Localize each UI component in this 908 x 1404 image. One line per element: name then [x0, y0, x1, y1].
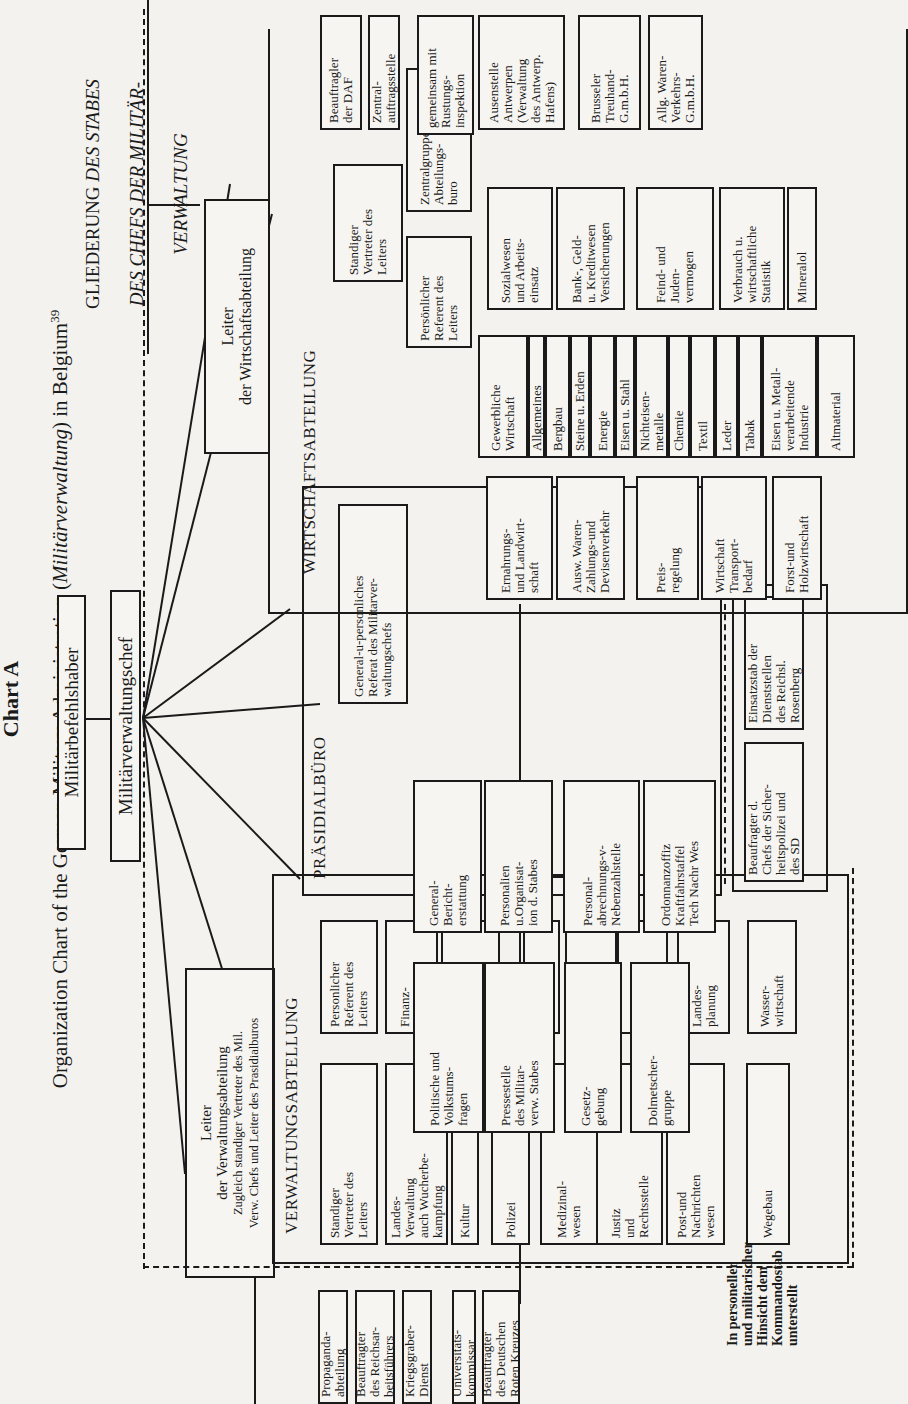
praesidial-unit: Gesetz- gebung — [564, 962, 622, 1133]
standiger-vertreter-box: Standiger Vertreter des Leiters — [333, 164, 403, 282]
wirtschaft-unit: Verbrauch u. wirtschaftliche Statistik — [719, 187, 785, 310]
gewerbliche-item: Allgemeines — [528, 335, 545, 458]
verwaltung-attached-unit: Propaganda- abteilung — [318, 1290, 348, 1404]
gewerbliche-item: Textil — [690, 335, 715, 458]
wirtschaft-unit: Forst-und Holzwirtschaft — [772, 476, 822, 600]
wirtschaft-unit: Mineralol — [787, 187, 817, 310]
wirtschaftsabteilung-title: WIRTSCHAFTSABTEILUNG — [300, 350, 320, 574]
verwaltung-attached-unit: Beauftragter des Reichsar- beitsführers — [355, 1290, 395, 1404]
sonder-dash — [724, 604, 726, 884]
sonder-bracket — [732, 584, 828, 892]
leiter-wirtschaft-box: Leiter der Wirtschaftsabteilung — [204, 199, 270, 454]
wirtschaft-attached-unit: Brusseler Treuhand- G.m.b.H. — [578, 15, 641, 130]
praesidial-unit: Personalien u.Organisat- ion d. Stabes — [484, 780, 553, 933]
wirtschaft-unit: Preis- regelung — [636, 476, 699, 600]
org-chart-page: Chart A Organization Chart of the German… — [0, 0, 908, 1404]
leiter-verwaltung-box: Leiter der Verwaltungsabteilung Zugleich… — [185, 968, 275, 1278]
verwaltung-unit: Wasser- wirtschaft — [747, 920, 797, 1034]
leiter-verwaltung-line1: Leiter — [198, 1105, 214, 1141]
kommandostab-note: In personeller und militarischer Hinsich… — [725, 1166, 800, 1346]
verwaltung-attached-unit: Universitats- kommissar — [452, 1290, 476, 1404]
wirtschaft-unit: Bank-, Geld- u. Kreditwesen Versicherung… — [556, 187, 625, 310]
leiter-verwaltung-line2: der Verwaltungsabteilung — [214, 1046, 230, 1199]
gewerbliche-header: Gewerbliche Wirtschaft — [478, 335, 528, 458]
leiter-verwaltung-line4: Verw. Chefs und Leiter des Prasidialburo… — [246, 1018, 262, 1228]
wirtschaft-attached-unit: gemeinsam mit Rustungs- inspektion — [417, 15, 474, 135]
verwaltungsabteilung-title: VERWALTUNGSABTELLUNG — [282, 997, 302, 1234]
gewerbliche-item: Chemie — [668, 335, 690, 458]
verwaltung-attached-unit: Kriegsgraber- Dienst — [402, 1290, 432, 1404]
stab-boundary-left — [143, 9, 145, 1269]
verwaltung-unit: Personlicher Referent des Leiters — [320, 920, 378, 1034]
praesidial-unit: Politische und Volkstums- fragen — [413, 962, 484, 1133]
praesidial-unit: General- Bericht- erstattung — [413, 780, 482, 933]
wirtschaft-attached-unit: Allg. Waren- Verkehrs- G.m.b.H. — [648, 15, 703, 130]
gewerbliche-item: Altmaterial — [817, 335, 855, 458]
praesidial-unit: Personal- abrechnungs-v- Nebenzahlstelle — [563, 780, 640, 933]
verwaltung-attached-unit: Beauftragter des Deutschen Roten Kreuzes — [482, 1290, 520, 1404]
gewerbliche-item: Bergbau — [545, 335, 570, 458]
gewerbliche-item: Nichteisen- metalle — [635, 335, 668, 458]
gewerbliche-item: Leder — [715, 335, 738, 458]
wirtschaft-attached-unit: Ausenstelle Antwerpen (Verwaltung des An… — [478, 15, 565, 130]
praesidial-unit: Dolmetscher- gruppe — [630, 962, 690, 1133]
wirtschaft-attached-unit: Beauftragler der DAF — [320, 15, 362, 130]
praesidialbuero-title: PRÄSIDIALBÜRO — [310, 736, 330, 879]
wirtschaft-unit: Sozialwesen und Arbeits- einsatz — [487, 187, 553, 310]
praesidial-unit: Pressestelle des Militar- verw. Stabes — [484, 962, 555, 1133]
wirtschaft-unit: Wirtschaft Transport- bedarf — [701, 476, 767, 600]
wirtschaft-unit: Ausw. Waren- Zahlungs-und Devisenverkehr — [556, 476, 625, 600]
gewerbliche-item: Energie — [590, 335, 615, 458]
verwaltung-dash-bottom — [852, 868, 854, 1268]
gewerbliche-item: Steine u. Erden — [570, 335, 590, 458]
wirtschaft-attached-unit: Zentral- auftragsstelle — [368, 15, 400, 130]
leiter-verwaltung-line3: Zugleich standiger Vertreter des Mil. — [230, 1031, 246, 1215]
verwaltung-unit: Standiger Vertreter des Leiters — [320, 1063, 378, 1245]
gewerbliche-item: Eisen u. Stahl — [615, 335, 635, 458]
gewerbliche-item: Tabak — [738, 335, 762, 458]
gewerbliche-item: Eisen u. Metall- verarbeitende Industrie — [762, 335, 817, 458]
wirtschaft-unit: Feind- und Juden- vermogen — [636, 187, 714, 310]
praesidial-unit: Ordonnanzoffiz Kraftfahrstaffel Tech Nac… — [643, 780, 716, 933]
persoenlicher-referent-box: Persönlicher Referent des Leiters — [406, 236, 472, 348]
wirtschaft-unit: Ernahrungs- und Landwirt- schaft — [486, 476, 553, 600]
